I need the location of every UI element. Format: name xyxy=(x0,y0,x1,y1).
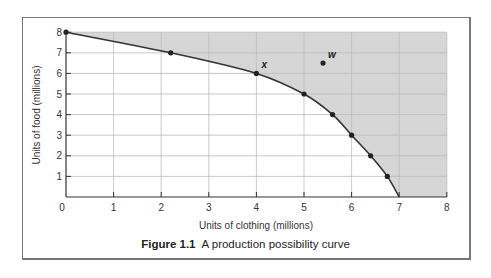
y-axis-title: Units of food (millions) xyxy=(31,66,42,165)
curve-point xyxy=(368,153,373,158)
y-tick-label: 4 xyxy=(56,109,62,120)
x-axis-title: Units of clothing (millions) xyxy=(199,220,313,231)
x-tick-label: 0 xyxy=(59,202,65,213)
curve-point xyxy=(330,112,335,117)
figure-number: Figure 1.1 xyxy=(141,238,195,250)
point-w xyxy=(320,61,325,66)
curve-point xyxy=(385,174,390,179)
curve-point xyxy=(301,91,306,96)
x-tick-label: 6 xyxy=(349,202,355,213)
ppc-chart: 01234567812345678 xw Units of clothing (… xyxy=(0,0,491,278)
x-tick-label: 3 xyxy=(206,202,212,213)
x-tick-label: 2 xyxy=(158,202,164,213)
annotation-label-x: x xyxy=(260,59,267,70)
y-tick-label: 3 xyxy=(56,130,62,141)
figure-title: A production possibility curve xyxy=(202,238,350,250)
x-tick-label: 7 xyxy=(396,202,402,213)
curve-point xyxy=(254,71,259,76)
x-tick-label: 4 xyxy=(254,202,260,213)
x-tick-label: 1 xyxy=(111,202,117,213)
y-tick-label: 2 xyxy=(56,150,62,161)
curve-point xyxy=(63,30,68,35)
x-tick-label: 5 xyxy=(301,202,307,213)
y-tick-label: 7 xyxy=(56,47,62,58)
figure-caption: Figure 1.1A production possibility curve xyxy=(0,238,491,250)
y-tick-label: 5 xyxy=(56,89,62,100)
y-tick-label: 1 xyxy=(56,171,62,182)
y-tick-label: 8 xyxy=(56,27,62,38)
annotation-label-w: w xyxy=(328,49,337,60)
curve-point xyxy=(168,50,173,55)
x-tick-label: 8 xyxy=(444,202,450,213)
y-tick-label: 6 xyxy=(56,68,62,79)
curve-point xyxy=(349,133,354,138)
